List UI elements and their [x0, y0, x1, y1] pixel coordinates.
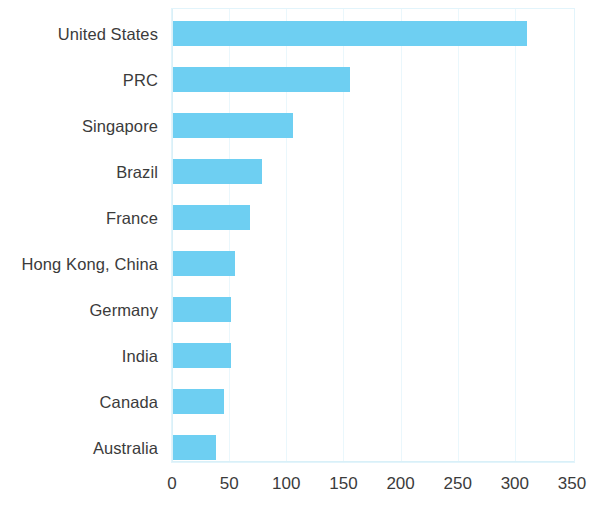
category-label-hong-kong-china: Hong Kong, China: [0, 256, 158, 273]
category-label-india: India: [0, 348, 158, 365]
xtick-50: 50: [220, 475, 239, 492]
xtick-0: 0: [167, 475, 176, 492]
category-label-united-states: United States: [0, 26, 158, 43]
value-axis-labels: 0 50 100 150 200 250 300 350: [171, 463, 575, 503]
xtick-250: 250: [444, 475, 472, 492]
category-label-brazil: Brazil: [0, 164, 158, 181]
bar-brazil: [173, 159, 262, 184]
xtick-300: 300: [501, 475, 529, 492]
xtick-150: 150: [329, 475, 357, 492]
bar-canada: [173, 389, 224, 414]
bar-hong-kong-china: [173, 251, 235, 276]
category-label-singapore: Singapore: [0, 118, 158, 135]
category-axis-labels: United States PRC Singapore Brazil Franc…: [0, 0, 166, 463]
bar-singapore: [173, 113, 293, 138]
plot-area: [171, 8, 575, 463]
category-label-australia: Australia: [0, 440, 158, 457]
category-axis-line: [172, 461, 574, 462]
bar-united-states: [173, 21, 527, 46]
xtick-100: 100: [272, 475, 300, 492]
bar-france: [173, 205, 250, 230]
bar-india: [173, 343, 231, 368]
bar-prc: [173, 67, 350, 92]
category-label-canada: Canada: [0, 394, 158, 411]
xtick-200: 200: [386, 475, 414, 492]
gridline-300: [515, 9, 516, 462]
category-label-germany: Germany: [0, 302, 158, 319]
bar-germany: [173, 297, 231, 322]
xtick-350: 350: [558, 475, 586, 492]
gridline-200: [401, 9, 402, 462]
bar-chart: United States PRC Singapore Brazil Franc…: [0, 0, 610, 519]
category-label-prc: PRC: [0, 72, 158, 89]
category-label-france: France: [0, 210, 158, 227]
bar-australia: [173, 435, 216, 460]
gridline-250: [458, 9, 459, 462]
